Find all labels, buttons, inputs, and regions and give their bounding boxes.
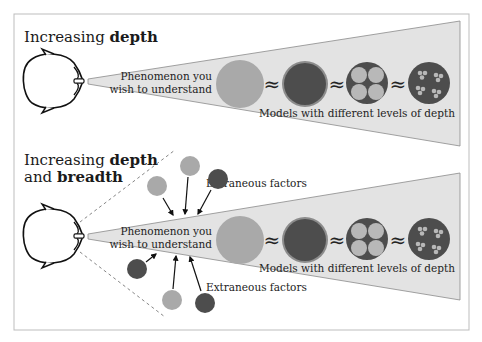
phenomenon-label-line2: wish to understand bbox=[109, 83, 212, 95]
arrow bbox=[146, 254, 156, 262]
model-3-circle bbox=[408, 62, 450, 104]
arrow bbox=[173, 256, 176, 289]
models-label: Models with different levels of depth bbox=[259, 262, 455, 274]
extraneous-factor bbox=[127, 259, 147, 279]
extraneous-factor bbox=[208, 169, 228, 189]
phenomenon-label: Phenomenon you bbox=[121, 225, 213, 237]
depth-breadth-diagram: Increasing depth Phenomenon you wish to … bbox=[0, 0, 482, 342]
arrow bbox=[163, 198, 173, 215]
panel-2-title-line2: and breadth bbox=[24, 168, 123, 186]
panel-depth: Increasing depth Phenomenon you wish to … bbox=[23, 21, 460, 146]
model-1-circle bbox=[284, 63, 326, 105]
extraneous-factor bbox=[180, 156, 200, 176]
phenomenon-circle bbox=[216, 216, 264, 264]
panel-depth-breadth: Increasing depth and breadth Phenomenon … bbox=[23, 150, 460, 317]
approx-icon: ≈ bbox=[390, 72, 407, 96]
extraneous-label-bottom: Extraneous factors bbox=[206, 281, 307, 293]
phenomenon-label: Phenomenon you bbox=[121, 70, 213, 82]
model-1-circle bbox=[284, 219, 326, 261]
extraneous-factor bbox=[162, 290, 182, 310]
head-icon bbox=[23, 204, 84, 268]
breadth-line-bottom bbox=[80, 252, 165, 317]
arrow bbox=[190, 257, 201, 291]
approx-icon: ≈ bbox=[264, 72, 281, 96]
head-icon bbox=[23, 49, 84, 113]
approx-icon: ≈ bbox=[264, 228, 281, 252]
extraneous-factor bbox=[195, 293, 215, 313]
extraneous-factor bbox=[147, 176, 167, 196]
model-2-circle bbox=[346, 218, 388, 260]
arrow bbox=[185, 177, 188, 214]
phenomenon-circle bbox=[216, 60, 264, 108]
model-3-circle bbox=[408, 218, 450, 260]
approx-icon: ≈ bbox=[390, 228, 407, 252]
approx-icon: ≈ bbox=[329, 228, 346, 252]
model-2-circle bbox=[346, 62, 388, 104]
panel-2-title: Increasing depth bbox=[24, 151, 158, 169]
panel-1-title: Increasing depth bbox=[24, 28, 158, 46]
models-label: Models with different levels of depth bbox=[259, 107, 455, 119]
phenomenon-label-line2: wish to understand bbox=[109, 238, 212, 250]
approx-icon: ≈ bbox=[329, 72, 346, 96]
arrow bbox=[198, 190, 211, 214]
